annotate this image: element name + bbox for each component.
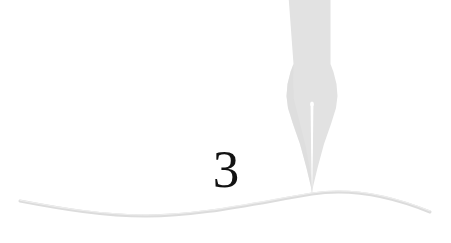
pen-nib-breather-hole — [310, 101, 314, 106]
chapter-number: 3 — [200, 140, 252, 198]
pen-nib-icon — [287, 0, 338, 194]
chapter-divider-page: 3 — [0, 0, 451, 243]
decorative-art-layer — [0, 0, 451, 243]
